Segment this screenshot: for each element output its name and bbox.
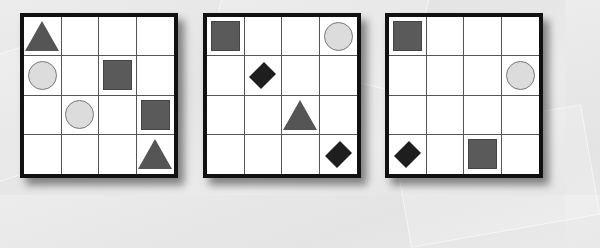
grid-cell [99,135,137,174]
grid-cell [207,96,245,135]
grid-cell [137,96,175,135]
grid-cell [464,135,502,174]
grid-cell [464,96,502,135]
grid-cell [502,135,540,174]
grid-cell [137,17,175,56]
grid-cell [282,56,320,95]
shape-grid-1 [20,13,178,178]
grid-cell [389,17,427,56]
grid-cell [99,96,137,135]
grid-cell [282,135,320,174]
grid-cell [464,56,502,95]
grid-cell [389,56,427,95]
shape-grid-2 [203,13,361,178]
triangle-icon [283,100,317,130]
grid-cell [389,96,427,135]
grid-cell [24,17,62,56]
grid-cell [427,17,465,56]
grid-cell [207,17,245,56]
circle-icon [324,22,353,51]
grid-cell [99,17,137,56]
grid-cell [502,17,540,56]
grid-cell [24,56,62,95]
grid-cell [245,56,283,95]
grid-cell [282,17,320,56]
circle-icon [65,100,94,129]
grid-cell [502,96,540,135]
square-icon [211,21,240,51]
square-icon [103,60,132,90]
grid-cell [245,17,283,56]
grid-cell [99,56,137,95]
square-icon [393,21,422,51]
grid-cell [427,96,465,135]
diamond-icon [249,62,276,89]
grid-cell [320,135,358,174]
grid-cell [389,135,427,174]
grid-cell [24,135,62,174]
diamond-icon [394,141,421,168]
grid-cell [427,56,465,95]
grid-cell [320,17,358,56]
square-icon [468,139,497,169]
grid-cell [282,96,320,135]
circle-icon [506,61,535,90]
grid-cell [62,96,100,135]
grid-cell [427,135,465,174]
grid-cell [62,56,100,95]
grid-cell [320,56,358,95]
grid-cell [320,96,358,135]
triangle-icon [138,139,172,169]
grid-cell [245,135,283,174]
grid-cell [137,56,175,95]
grid-cell [245,96,283,135]
diamond-icon [325,141,352,168]
grid-cell [62,17,100,56]
grid-cell [502,56,540,95]
grid-cell [24,96,62,135]
circle-icon [28,61,57,90]
grid-cell [62,135,100,174]
triangle-icon [25,21,59,51]
grid-cell [207,56,245,95]
grid-cell [207,135,245,174]
grid-cell [137,135,175,174]
grid-cell [464,17,502,56]
square-icon [141,100,170,130]
shape-grid-3 [385,13,543,178]
